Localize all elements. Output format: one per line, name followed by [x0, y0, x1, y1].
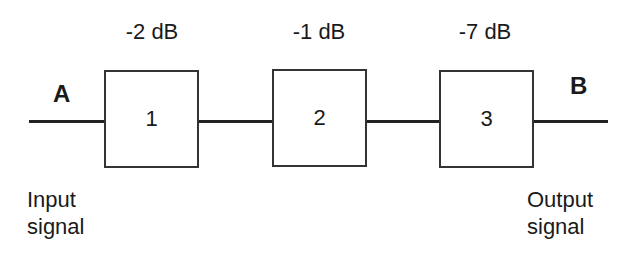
input-line — [29, 120, 105, 123]
stage-3-gain: -7 dB — [425, 19, 545, 45]
stage-1-label: 1 — [145, 106, 157, 132]
stage-2-label: 2 — [313, 105, 325, 131]
output-line — [532, 120, 608, 123]
stage-3-box: 3 — [439, 70, 534, 168]
stage-2-gain: -1 dB — [259, 19, 379, 45]
connector-2-3 — [365, 120, 440, 123]
output-caption-line-1: Output — [527, 186, 593, 213]
input-caption: Input signal — [27, 186, 84, 240]
stage-2-box: 2 — [272, 69, 367, 167]
input-caption-line-1: Input — [27, 186, 84, 213]
connector-1-2 — [197, 120, 273, 123]
output-caption-line-2: signal — [527, 213, 593, 240]
stage-3-label: 3 — [480, 106, 492, 132]
output-point-label: B — [570, 72, 587, 100]
input-point-label: A — [53, 80, 70, 108]
stage-1-box: 1 — [104, 70, 199, 168]
stage-1-gain: -2 dB — [92, 19, 212, 45]
input-caption-line-2: signal — [27, 213, 84, 240]
output-caption: Output signal — [527, 186, 593, 240]
